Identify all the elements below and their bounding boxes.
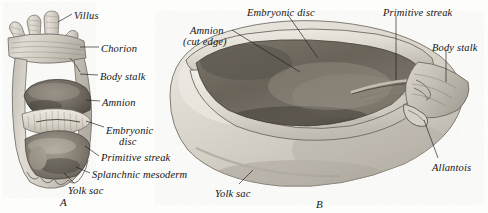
label-primitive-streak: Primitive streak <box>101 152 170 164</box>
label-embryonic-disc-b: Embryonic disc <box>247 7 315 19</box>
embryology-figure: Villus Chorion Body stalk Amnion Embryon… <box>0 0 488 213</box>
label-yolk-sac-a: Yolk sac <box>68 185 104 197</box>
label-body-stalk-b: Body stalk <box>432 42 478 54</box>
label-primitive-streak-b: Primitive streak <box>383 7 452 19</box>
label-amnion-cut-edge-line1: Amnion <box>190 25 224 37</box>
label-allantois: Allantois <box>432 162 471 174</box>
panel-letter-b: B <box>316 198 323 210</box>
label-splanchnic-mesoderm: Splanchnic mesoderm <box>92 169 187 181</box>
label-embryonic-disc-line2: disc <box>119 136 137 148</box>
label-amnion: Amnion <box>102 97 136 109</box>
label-embryonic-disc-line1: Embryonic <box>106 125 153 137</box>
illustration-canvas <box>0 0 488 213</box>
label-body-stalk: Body stalk <box>100 71 146 83</box>
label-chorion: Chorion <box>101 43 137 55</box>
label-amnion-cut-edge-line2: (cut edge) <box>183 36 227 48</box>
panel-letter-a: A <box>60 196 67 208</box>
label-villus: Villus <box>74 10 99 22</box>
label-yolk-sac-b: Yolk sac <box>215 188 251 200</box>
